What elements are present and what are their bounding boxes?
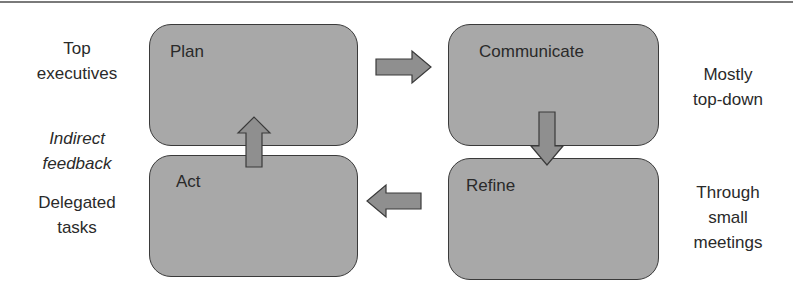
label-through-small-meetings: Through small meetings	[668, 180, 788, 255]
box-refine: Refine	[448, 158, 659, 280]
label-delegated-tasks: Delegated tasks	[22, 190, 132, 240]
box-refine-label: Refine	[466, 176, 515, 196]
label-line: Mostly	[668, 62, 788, 87]
label-line: executives	[22, 61, 132, 86]
label-line: Top	[22, 36, 132, 61]
box-communicate-label: Communicate	[479, 42, 584, 62]
label-top-executives: Top executives	[22, 36, 132, 86]
box-act-label: Act	[176, 172, 201, 192]
box-act: Act	[149, 155, 358, 277]
label-line: Delegated	[22, 190, 132, 215]
label-line: tasks	[22, 215, 132, 240]
label-line: top-down	[668, 87, 788, 112]
arrow-up-icon	[237, 116, 271, 168]
arrow-left-icon	[366, 184, 422, 218]
label-mostly-top-down: Mostly top-down	[668, 62, 788, 112]
box-plan-label: Plan	[170, 42, 204, 62]
label-indirect-feedback: Indirect feedback	[22, 126, 132, 176]
top-rule	[0, 1, 793, 3]
arrow-right-icon	[375, 50, 433, 84]
label-line: small	[668, 205, 788, 230]
arrow-down-icon	[530, 111, 564, 167]
label-line: meetings	[668, 230, 788, 255]
label-line: Indirect	[22, 126, 132, 151]
label-line: feedback	[22, 151, 132, 176]
label-line: Through	[668, 180, 788, 205]
